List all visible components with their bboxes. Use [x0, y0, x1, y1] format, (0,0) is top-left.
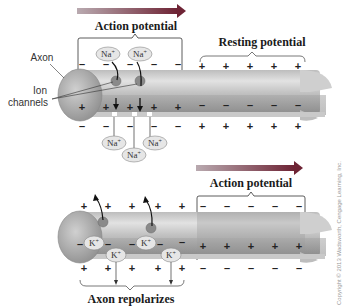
copyright-notice: Copyright © 2013 Wadsworth, Cengage Lear… [336, 161, 342, 305]
axon-end-cap [58, 69, 102, 121]
svg-text:–: – [271, 99, 277, 111]
svg-text:–: – [175, 58, 181, 70]
axon-diagram: Action potential Resting potential Na+ [0, 0, 345, 308]
svg-text:+: + [247, 60, 253, 72]
svg-text:–: – [103, 58, 109, 70]
svg-text:–: – [296, 262, 302, 274]
svg-text:+: + [271, 60, 277, 72]
action-below-signs: – – – – – [79, 120, 181, 132]
action-below-signs-bottom: – – – – – [200, 262, 302, 274]
potassium-ion: K+ [161, 248, 181, 262]
svg-text:+: + [199, 120, 205, 132]
svg-text:+: + [105, 200, 111, 212]
svg-text:–: – [79, 120, 85, 132]
svg-text:+: + [248, 240, 254, 252]
svg-text:–: – [127, 120, 133, 132]
svg-text:–: – [224, 262, 230, 274]
propagation-arrow-icon [77, 4, 186, 18]
svg-text:+: + [223, 60, 229, 72]
bottom-panel: Action potential K+ K+ K+ [58, 161, 332, 306]
axon-label: Axon [31, 52, 54, 63]
sodium-ion: Na+ [143, 136, 167, 150]
potassium-ion: K+ [136, 236, 156, 250]
propagation-arrow-icon [196, 161, 303, 175]
svg-text:–: – [127, 58, 133, 70]
svg-text:+: + [224, 240, 230, 252]
svg-text:–: – [129, 238, 135, 250]
svg-text:–: – [175, 120, 181, 132]
svg-text:+: + [105, 262, 111, 274]
svg-text:–: – [296, 200, 302, 212]
action-outside-signs-bottom: – – – – – [200, 200, 302, 212]
svg-text:–: – [157, 238, 163, 250]
action-potential-label: Action potential [95, 19, 178, 33]
svg-text:+: + [295, 120, 301, 132]
action-outside-signs: – – – – – [79, 58, 181, 70]
svg-text:–: – [248, 262, 254, 274]
svg-text:–: – [151, 58, 157, 70]
svg-text:–: – [77, 238, 83, 250]
svg-text:+: + [199, 60, 205, 72]
svg-text:–: – [224, 200, 230, 212]
svg-text:–: – [151, 120, 157, 132]
svg-text:–: – [103, 120, 109, 132]
repol-outside-signs: + + + + + [81, 200, 185, 212]
svg-text:+: + [129, 262, 135, 274]
ion-channel [146, 223, 156, 233]
svg-text:+: + [127, 101, 133, 113]
svg-text:+: + [200, 240, 206, 252]
svg-text:–: – [272, 262, 278, 274]
ion-channels-label-line1: Ion [33, 85, 47, 96]
ion-channel [135, 76, 145, 86]
svg-text:+: + [175, 101, 181, 113]
top-panel: Action potential Resting potential Na+ [8, 4, 332, 162]
svg-text:+: + [295, 60, 301, 72]
potassium-ion: K+ [106, 248, 126, 262]
svg-text:–: – [179, 236, 185, 248]
svg-text:–: – [295, 99, 301, 111]
svg-text:+: + [81, 200, 87, 212]
svg-text:–: – [247, 99, 253, 111]
svg-text:–: – [200, 262, 206, 274]
svg-text:+: + [155, 200, 161, 212]
action-potential-label-bottom: Action potential [210, 176, 293, 190]
svg-text:+: + [79, 101, 85, 113]
sodium-ion: Na+ [102, 136, 126, 150]
potassium-ion: K+ [84, 236, 104, 250]
repolarizes-brace [80, 280, 184, 290]
ion-channels-label-line2: channels [8, 97, 48, 108]
resting-below-signs: + + + + + [199, 120, 301, 132]
sodium-ion: Na+ [122, 148, 146, 162]
svg-text:+: + [155, 262, 161, 274]
ion-channel [111, 76, 121, 86]
svg-text:–: – [105, 238, 111, 250]
svg-text:+: + [151, 101, 157, 113]
axon-repolarizes-label: Axon repolarizes [88, 292, 175, 306]
svg-text:–: – [248, 200, 254, 212]
svg-text:+: + [272, 240, 278, 252]
svg-text:–: – [272, 200, 278, 212]
repol-below-signs: + + + + + [81, 262, 185, 274]
svg-text:+: + [129, 200, 135, 212]
svg-text:–: – [79, 58, 85, 70]
svg-text:+: + [296, 240, 302, 252]
svg-text:+: + [179, 200, 185, 212]
svg-text:+: + [247, 120, 253, 132]
svg-text:–: – [199, 99, 205, 111]
svg-text:–: – [200, 200, 206, 212]
axon-tube-top [58, 69, 332, 121]
svg-text:+: + [223, 120, 229, 132]
svg-text:+: + [81, 262, 87, 274]
svg-text:–: – [223, 99, 229, 111]
svg-text:+: + [179, 262, 185, 274]
resting-potential-label: Resting potential [219, 35, 307, 49]
svg-text:+: + [271, 120, 277, 132]
svg-text:+: + [103, 101, 109, 113]
